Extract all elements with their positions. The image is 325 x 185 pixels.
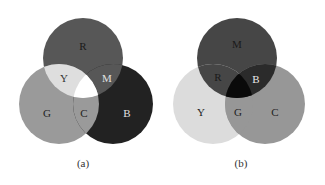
label-c: C	[271, 106, 278, 118]
label-y: Y	[60, 72, 68, 84]
label-b: B	[252, 73, 259, 85]
label-r: R	[214, 71, 222, 83]
label-g: G	[234, 106, 242, 118]
label-m: M	[232, 38, 242, 50]
label-c: C	[80, 107, 87, 119]
caption-b: (b)	[235, 157, 248, 170]
panel-b-subtractive: M R B Y G C (b)	[173, 18, 305, 170]
color-model-figure: R Y M G C B (a) M R B Y G C (b)	[0, 0, 325, 185]
label-g: G	[43, 107, 51, 119]
caption-a: (a)	[77, 157, 90, 170]
label-y: Y	[197, 106, 205, 118]
label-m: M	[102, 72, 112, 84]
panel-a-additive: R Y M G C B (a)	[19, 18, 153, 170]
label-r: R	[79, 40, 87, 52]
label-b: B	[123, 107, 130, 119]
